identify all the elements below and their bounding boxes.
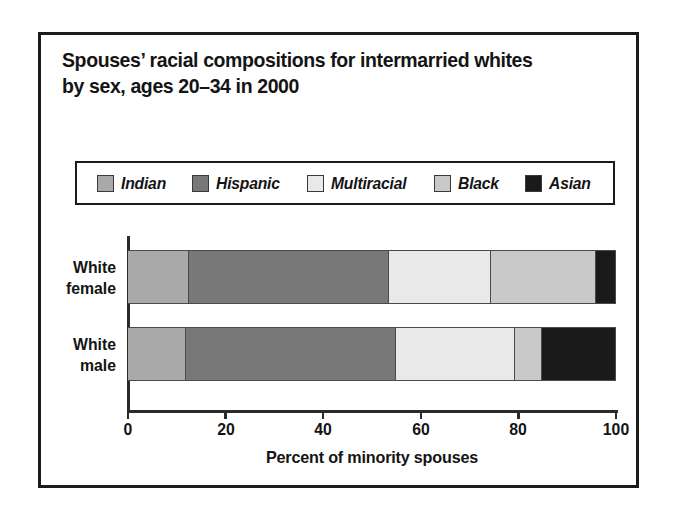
chart-title-line-2: by sex, ages 20–34 in 2000 bbox=[62, 73, 566, 99]
legend-label-asian: Asian bbox=[549, 174, 591, 193]
x-tick-100 bbox=[615, 410, 618, 419]
x-ticklabel-60: 60 bbox=[412, 420, 430, 440]
segment-multiracial-white-male bbox=[396, 328, 515, 380]
category-label-line-2: female bbox=[27, 279, 116, 300]
legend-swatch-asian bbox=[525, 175, 542, 192]
legend-label-multiracial: Multiracial bbox=[331, 174, 406, 193]
x-ticklabel-0: 0 bbox=[124, 420, 133, 440]
legend-item-multiracial: Multiracial bbox=[307, 174, 410, 193]
segment-hispanic-white-male bbox=[186, 328, 395, 380]
segment-hispanic-white-female bbox=[189, 251, 389, 303]
legend-label-indian: Indian bbox=[121, 174, 166, 193]
segment-black-white-female bbox=[491, 251, 596, 303]
x-ticklabel-40: 40 bbox=[314, 420, 332, 440]
category-label-line-1: White bbox=[27, 258, 116, 279]
legend-label-black: Black bbox=[458, 174, 499, 193]
bar-white-male bbox=[128, 327, 616, 381]
x-ticklabel-100: 100 bbox=[603, 420, 629, 440]
segment-black-white-male bbox=[515, 328, 542, 380]
segment-indian-white-female bbox=[128, 251, 189, 303]
legend-item-indian: Indian bbox=[97, 174, 168, 193]
segment-multiracial-white-female bbox=[389, 251, 491, 303]
category-label-line-1: White bbox=[27, 335, 116, 356]
x-tick-60 bbox=[420, 410, 423, 419]
category-label-line-2: male bbox=[27, 356, 116, 377]
legend-item-asian: Asian bbox=[525, 174, 593, 193]
x-ticklabel-20: 20 bbox=[217, 420, 235, 440]
chart-legend: IndianHispanicMultiracialBlackAsian bbox=[75, 161, 615, 205]
segment-asian-white-male bbox=[542, 328, 615, 380]
plot-area: White female White male Percent of minor… bbox=[128, 236, 616, 410]
chart-title-line-1: Spouses’ racial compositions for interma… bbox=[62, 47, 566, 73]
legend-swatch-hispanic bbox=[192, 175, 209, 192]
legend-label-hispanic: Hispanic bbox=[216, 174, 280, 193]
category-label-white-male: White male bbox=[27, 335, 116, 376]
category-label-white-female: White female bbox=[27, 258, 116, 299]
x-tick-80 bbox=[517, 410, 520, 419]
x-tick-20 bbox=[224, 410, 227, 419]
x-ticklabel-80: 80 bbox=[510, 420, 528, 440]
x-axis-title: Percent of minority spouses bbox=[140, 448, 604, 468]
x-tick-0 bbox=[127, 410, 130, 419]
x-tick-40 bbox=[322, 410, 325, 419]
legend-swatch-black bbox=[434, 175, 451, 192]
legend-swatch-indian bbox=[97, 175, 114, 192]
x-axis-line bbox=[127, 410, 618, 413]
legend-item-black: Black bbox=[434, 174, 501, 193]
legend-item-hispanic: Hispanic bbox=[192, 174, 283, 193]
chart-title: Spouses’ racial compositions for interma… bbox=[62, 47, 566, 99]
chart-figure: Spouses’ racial compositions for interma… bbox=[0, 0, 677, 520]
segment-indian-white-male bbox=[128, 328, 186, 380]
segment-asian-white-female bbox=[596, 251, 615, 303]
bar-white-female bbox=[128, 250, 616, 304]
legend-swatch-multiracial bbox=[307, 175, 324, 192]
